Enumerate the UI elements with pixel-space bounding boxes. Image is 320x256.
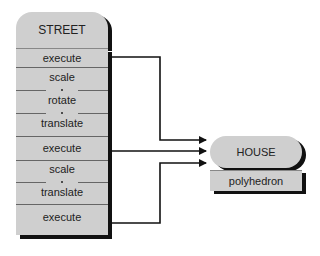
house-field-box: polyhedron [210,170,302,191]
house-node-header: HOUSE [210,136,302,168]
connector-arrows [0,0,320,256]
house-title: HOUSE [236,146,275,158]
arrow-execute-1-to-house [111,57,206,140]
arrow-execute-3-to-house [111,163,206,223]
house-field-polyhedron: polyhedron [229,175,283,187]
